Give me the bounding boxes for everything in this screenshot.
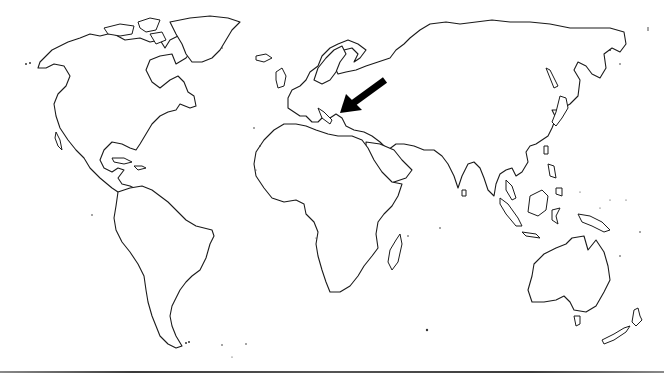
landmass-philippines (548, 164, 556, 178)
landmass-new-zealand-north (632, 308, 642, 326)
landmass-australia (528, 236, 610, 312)
world-map-svg (0, 0, 664, 377)
landmass-sri-lanka (462, 190, 466, 196)
world-map (0, 0, 664, 377)
landmass-hispaniola (134, 166, 146, 170)
landmass-arctic-islands (104, 24, 134, 36)
landmass-sulawesi (552, 208, 560, 224)
landmass-madagascar (388, 234, 402, 270)
landmass-great-britain (276, 68, 286, 88)
landmass-baja (55, 132, 62, 150)
landmass-taiwan (544, 146, 548, 154)
bottom-divider (0, 371, 664, 373)
landmass-arctic-islands-2 (138, 18, 160, 32)
landmass-malay-peninsula (506, 180, 516, 200)
landmass-tasmania (574, 316, 580, 326)
landmass-north-america (38, 33, 196, 210)
landmass-new-zealand-south (602, 326, 630, 344)
landmass-philippines-2 (556, 188, 562, 196)
landmass-borneo (528, 190, 548, 216)
landmass-new-guinea (578, 214, 610, 232)
landmass-sumatra (500, 198, 522, 226)
landmass-cuba (112, 158, 132, 164)
landmass-south-america (114, 186, 214, 348)
landmass-iceland (256, 54, 272, 62)
landmass-java (522, 232, 540, 238)
